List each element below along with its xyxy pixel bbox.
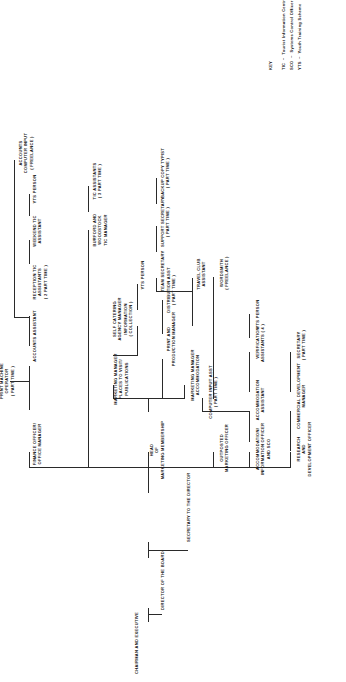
- link-secretaries-group: [192, 291, 193, 326]
- link-weekend-yts: [29, 194, 30, 216]
- node-backup-copy-typist: BACKUP COPY TYPIST ( PART TIME ): [160, 136, 171, 210]
- branch-accommodation: [249, 452, 250, 468]
- link-tic-assistants: [88, 186, 89, 212]
- link-wordsmith: [213, 277, 214, 399]
- link-head-marketing-subtrunk: [148, 398, 149, 412]
- node-chairman: CHAIRMAN AND EXECUTIVE: [134, 564, 139, 674]
- node-wordsmith-freelance: WORDSMITH ( FREELANCE ): [219, 242, 230, 304]
- node-secretary-part-time: SECRETARY ( PART TIME ): [296, 314, 307, 376]
- node-head-of-marketing-membership: HEAD OF MARKETING MEMBERSHIP: [149, 404, 165, 496]
- link-backup-typist: [156, 178, 157, 204]
- link-reception-weekend: [29, 240, 30, 264]
- branch-outposted: [213, 452, 214, 468]
- link-print-production: [162, 359, 163, 399]
- link-commercial-secretary: [290, 352, 291, 392]
- branch-research: [290, 452, 291, 468]
- link-distribution-asst: [162, 300, 163, 334]
- key-entry-sco: SCO – Systems Control Officer: [289, 0, 296, 70]
- node-yts-person-marketing: YTS PERSON: [140, 246, 145, 304]
- org-chart-canvas: CHAIRMAN AND EXECUTIVE DIRECTOR OF THE B…: [0, 0, 346, 682]
- link-research-commercial: [290, 411, 291, 451]
- node-distribution-asst: DISTRIBUTION ASST ( PART TIME ): [166, 254, 177, 326]
- reception-group-trunk: [14, 317, 30, 318]
- branch-burford-woodstock: [88, 230, 89, 468]
- node-yts-person-accommodation: YTS PERSON: [255, 286, 260, 342]
- branch-team-secretary: [156, 278, 157, 292]
- key-entry-yts: YTS – Youth Training Scheme: [297, 4, 304, 70]
- node-marketing-manager-accommodation: MARKETING MANAGER ACCOMMODATION: [190, 330, 201, 420]
- branch-finance-officer: [29, 452, 30, 468]
- key-entry-tic: TIC – Tourist Information Centre: [281, 0, 288, 70]
- node-self-catering-agency-manager: SELF CATERING AGENCY MANAGER INFORMATION…: [112, 278, 133, 360]
- chart-rotation-wrapper: CHAIRMAN AND EXECUTIVE DIRECTOR OF THE B…: [0, 0, 346, 682]
- link-accom-asst: [249, 412, 250, 442]
- link-accom-verification: [249, 352, 250, 392]
- spine-chairman-director: [148, 608, 149, 622]
- link-self-catering-yts: [137, 284, 138, 310]
- link-accounts-assistant: [29, 316, 30, 346]
- tick-secretary: [148, 550, 188, 551]
- link-computer-input-asst: [202, 398, 203, 412]
- node-outposted-marketing-officer: OUTPOSTED MARKETING OFFICER: [219, 410, 230, 486]
- node-tic-assistants: TIC ASSISTANTS ( 3 PART TIME ): [92, 146, 103, 216]
- tick-director: [148, 614, 162, 615]
- node-accounts-computer-input: ACCOUNTS COMPUTER INPUT ( FREELANCE ): [18, 116, 34, 190]
- branch-travel-club: [192, 278, 193, 292]
- node-finance-officer-office-manager: FINANCE OFFICER/ OFFICE MANAGER: [32, 404, 43, 484]
- node-director-of-board: DIRECTOR OF THE BOARD: [160, 500, 165, 610]
- link-verification-yts: [249, 314, 250, 338]
- link-finance-print-machine: [29, 366, 30, 410]
- node-travel-club-assistant: TRAVEL CLUB ASSISTANT: [196, 242, 207, 306]
- bus-accounts-computer-input: [14, 160, 15, 318]
- link-self-catering: [137, 326, 138, 356]
- key-heading: KEY: [268, 61, 275, 70]
- node-print-machine-operator: PRINT MACHINE OPERATOR ( PART TIME ): [0, 344, 15, 418]
- node-secretary-to-director: SECRETARY TO THE DIRECTOR: [186, 432, 191, 542]
- link-support-secretary: [156, 226, 157, 252]
- branch-marketing-accommodation: [184, 385, 185, 399]
